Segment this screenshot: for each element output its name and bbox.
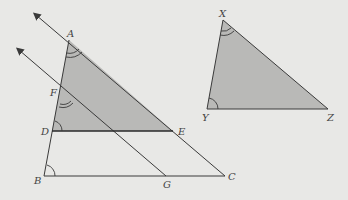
diagram-canvas: A F D B E G C X Y Z (0, 0, 348, 200)
label-D: D (40, 126, 49, 137)
label-Z: Z (326, 112, 335, 123)
triangle-XYZ (207, 20, 328, 109)
label-C: C (228, 171, 236, 182)
angle-B-mark (47, 165, 55, 176)
label-G: G (163, 179, 171, 190)
label-X: X (218, 8, 227, 19)
label-B: B (33, 175, 41, 186)
label-Y: Y (202, 112, 210, 123)
label-F: F (49, 87, 58, 98)
geometry-figure: A F D B E G C X Y Z (0, 0, 348, 200)
label-A: A (66, 28, 74, 39)
label-E: E (177, 126, 186, 137)
